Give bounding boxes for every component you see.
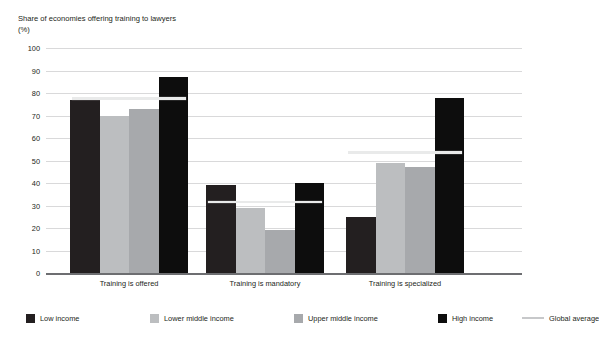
legend-item[interactable]: Global average — [522, 314, 599, 323]
legend-label: Global average — [549, 314, 599, 323]
chart-legend: Low incomeLower middle incomeUpper middl… — [26, 310, 526, 326]
bar — [405, 167, 435, 273]
y-axis-tick-label: 90 — [16, 66, 40, 75]
y-axis-tick-label: 30 — [16, 201, 40, 210]
y-axis-tick-label: 70 — [16, 111, 40, 120]
bar — [295, 183, 325, 273]
legend-item[interactable]: Upper middle income — [294, 314, 378, 323]
bar — [236, 208, 266, 273]
bar — [435, 98, 465, 274]
legend-swatch-icon — [294, 314, 303, 323]
y-axis-tick-label: 0 — [16, 269, 40, 278]
global-average-line — [208, 201, 322, 204]
axis-baseline — [46, 273, 522, 275]
y-axis-tick-label: 80 — [16, 89, 40, 98]
bar-group: Training is mandatory — [206, 48, 324, 273]
plot-area: Training is offeredTraining is mandatory… — [46, 48, 522, 273]
axis-title-text: Share of economies offering training to … — [18, 14, 176, 23]
bar-group: Training is offered — [70, 48, 188, 273]
bar — [206, 185, 236, 273]
bar — [346, 217, 376, 273]
y-axis-tick-label: 10 — [16, 246, 40, 255]
legend-item[interactable]: High income — [438, 314, 493, 323]
bar — [265, 230, 295, 273]
legend-item[interactable]: Low income — [26, 314, 79, 323]
category-label: Training is mandatory — [206, 279, 324, 288]
y-axis-tick-label: 100 — [16, 44, 40, 53]
legend-label: Upper middle income — [308, 314, 378, 323]
chart-axis-title: Share of economies offering training to … — [18, 14, 176, 35]
legend-swatch-icon — [438, 314, 447, 323]
legend-label: Lower middle income — [164, 314, 234, 323]
bar — [70, 100, 100, 273]
legend-label: High income — [452, 314, 493, 323]
bar — [100, 116, 130, 274]
category-label: Training is specialized — [346, 279, 464, 288]
bar — [376, 163, 406, 273]
category-label: Training is offered — [70, 279, 188, 288]
bar — [159, 77, 189, 273]
legend-swatch-icon — [26, 314, 35, 323]
y-axis-tick-label: 60 — [16, 134, 40, 143]
bar — [129, 109, 159, 273]
bar-group: Training is specialized — [346, 48, 464, 273]
y-axis-tick-label: 40 — [16, 179, 40, 188]
legend-item[interactable]: Lower middle income — [150, 314, 234, 323]
legend-label: Low income — [40, 314, 79, 323]
global-average-line — [348, 151, 462, 154]
cropped-title-remnant — [18, 0, 318, 3]
y-axis-tick-label: 50 — [16, 156, 40, 165]
axis-unit-text: (%) — [18, 25, 176, 36]
y-axis-tick-label: 20 — [16, 224, 40, 233]
global-average-line — [72, 97, 186, 100]
legend-line-icon — [522, 317, 544, 319]
legend-swatch-icon — [150, 314, 159, 323]
y-axis: 0102030405060708090100 — [0, 48, 40, 273]
